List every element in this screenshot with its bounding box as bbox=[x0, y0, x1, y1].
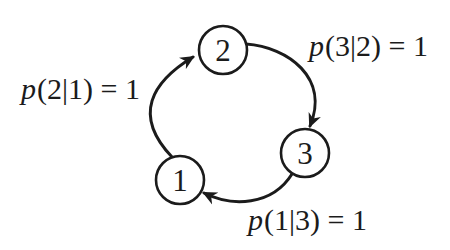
state-node-1-label: 1 bbox=[172, 163, 188, 198]
edge-label-p-3-given-2: p(3|2) = 1 bbox=[309, 31, 428, 61]
transition-arrow-3-to-1 bbox=[204, 174, 292, 202]
edge-label-p-2-given-1: p(2|1) = 1 bbox=[21, 74, 140, 104]
markov-chain-cycle-diagram: 1 2 3 p(2|1) = 1 p(3|2) = 1 p(1|3) = 1 bbox=[0, 0, 450, 250]
transition-arrow-1-to-2 bbox=[150, 57, 193, 157]
edge-label-expression: (2|1) = 1 bbox=[37, 72, 140, 105]
edge-label-p-1-given-3: p(1|3) = 1 bbox=[248, 205, 367, 235]
edge-label-expression: (3|2) = 1 bbox=[325, 29, 428, 62]
transition-arrow-2-to-3 bbox=[246, 44, 315, 126]
edge-label-function-symbol: p bbox=[248, 203, 263, 236]
state-node-3-label: 3 bbox=[297, 136, 313, 171]
edge-label-function-symbol: p bbox=[21, 72, 36, 105]
edge-label-function-symbol: p bbox=[309, 29, 324, 62]
edge-label-expression: (1|3) = 1 bbox=[264, 203, 367, 236]
state-node-2-label: 2 bbox=[215, 33, 231, 68]
